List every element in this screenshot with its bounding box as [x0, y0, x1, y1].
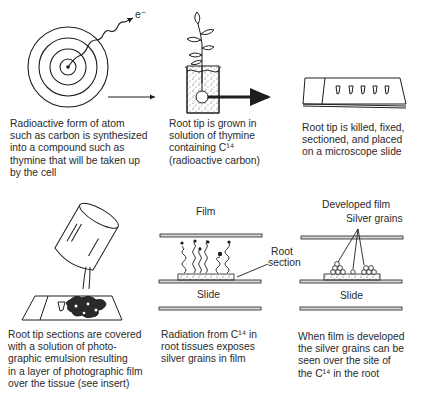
caption-step-3: Root tip is killed, fixed, sectioned, an…	[302, 122, 404, 159]
caption-step-6: When film is developed the silver grains…	[298, 331, 404, 380]
caption-line: Radiation from C¹⁴ in	[161, 329, 257, 341]
caption-line: such as carbon is synthesized	[10, 130, 147, 142]
developed-slide-label: Slide	[340, 290, 363, 302]
caption-line: graphic emulsion resulting	[8, 353, 143, 365]
caption-line: with a solution of photo-	[8, 341, 143, 353]
caption-line: over the tissue (see insert)	[8, 378, 143, 390]
film-bar	[160, 234, 262, 237]
autoradiography-diagram: e⁻ Radioactive form of atom such as carb…	[0, 0, 421, 403]
caption-line: solution of thymine	[169, 130, 260, 142]
caption-line: by the cell	[10, 167, 147, 179]
dev-slide-bar-lower	[300, 307, 402, 310]
caption-line: the silver grains can be	[298, 343, 404, 355]
caption-line: (radioactive carbon)	[169, 155, 260, 167]
caption-line: When film is developed	[298, 331, 404, 343]
caption-line: Root tip is killed, fixed,	[302, 122, 404, 134]
slide-label: Slide	[197, 289, 220, 301]
developed-film-label: Developed film	[322, 199, 390, 211]
root-section-label-line2: section	[268, 257, 301, 269]
pouring-emulsion-icon	[22, 199, 122, 320]
caption-line: in a layer of photographic film	[8, 366, 143, 378]
slide-bar-upper	[159, 280, 261, 283]
slide-bar-lower	[159, 307, 261, 310]
caption-step-1: Radioactive form of atom such as carbon …	[10, 118, 147, 179]
caption-step-4: Root tip sections are covered with a sol…	[8, 329, 143, 390]
electron-label: e⁻	[135, 9, 146, 21]
film-label: Film	[196, 206, 215, 218]
caption-step-2: Root tip is grown in solution of thymine…	[169, 118, 260, 167]
caption-line: Radioactive form of atom	[10, 118, 147, 130]
caption-line: seen over the site of	[298, 355, 404, 367]
radioactive-atom-icon	[28, 18, 133, 107]
caption-line: the C¹⁴ in the root	[298, 368, 404, 380]
dev-slide-bar-upper	[300, 280, 402, 283]
caption-line: into a compound such as	[10, 142, 147, 154]
caption-step-5: Radiation from C¹⁴ in root tissues expos…	[161, 329, 257, 366]
silver-grains-label: Silver grains	[346, 213, 403, 225]
caption-line: silver grains in film	[161, 353, 257, 365]
caption-line: root tissues exposes	[161, 341, 257, 353]
caption-line: sectioned, and placed	[302, 134, 404, 146]
caption-line: containing C¹⁴	[169, 142, 260, 154]
microscope-slide-icon	[303, 78, 406, 108]
caption-line: thymine that will be taken up	[10, 155, 147, 167]
caption-line: Root tip sections are covered	[8, 329, 143, 341]
caption-line: Root tip is grown in	[169, 118, 260, 130]
caption-line: on a microscope slide	[302, 146, 404, 158]
